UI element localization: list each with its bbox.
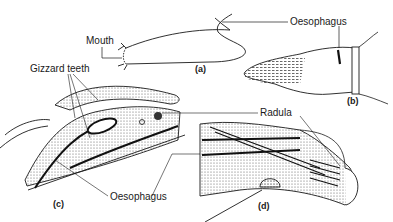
panel-label-b: (b) [347,97,359,106]
label-oesophagus-cd: Oesophagus [110,192,167,202]
mouth-leader-line [102,47,122,58]
panel-d-section [200,122,358,222]
label-radula: Radula [260,108,292,118]
diagram-drawing [0,0,393,222]
panel-label-a: (a) [195,65,206,74]
label-gizzard-teeth: Gizzard teeth [30,64,89,74]
panel-b-organ [244,32,388,104]
panel-a-body-outline [118,14,245,70]
panel-label-d: (d) [258,202,270,211]
panel-c-section [0,86,185,190]
label-mouth: Mouth [86,36,114,46]
label-oesophagus-b: Oesophagus [290,17,347,27]
panel-label-c: (c) [53,200,64,209]
